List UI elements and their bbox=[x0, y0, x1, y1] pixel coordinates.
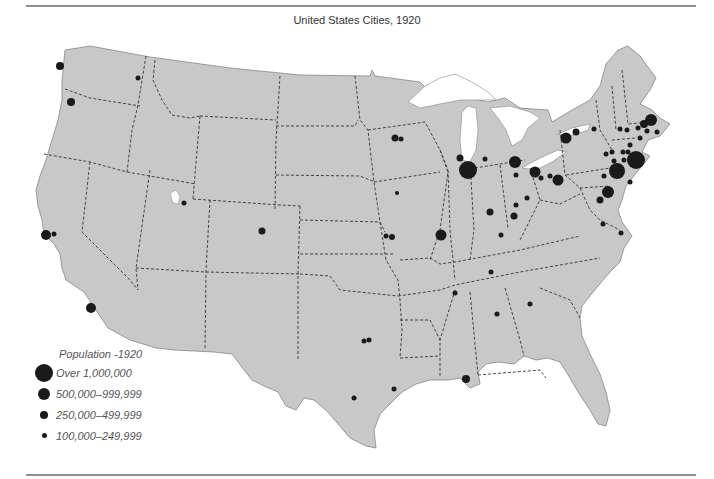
city-marker bbox=[636, 126, 641, 131]
city-marker bbox=[67, 98, 75, 106]
city-marker bbox=[392, 387, 397, 392]
city-marker bbox=[601, 222, 606, 227]
bottom-rule bbox=[26, 474, 696, 476]
city-marker bbox=[528, 302, 533, 307]
city-marker bbox=[136, 76, 141, 81]
city-marker bbox=[604, 152, 609, 157]
city-marker bbox=[618, 127, 623, 132]
city-marker bbox=[384, 234, 389, 239]
city-marker bbox=[622, 158, 627, 163]
city-marker bbox=[621, 150, 626, 155]
legend-item-100k: 100,000–249,999 bbox=[32, 425, 142, 446]
city-marker bbox=[548, 174, 553, 179]
city-marker bbox=[453, 291, 458, 296]
city-marker bbox=[573, 129, 580, 136]
city-marker bbox=[638, 136, 643, 141]
city-marker bbox=[487, 209, 494, 216]
city-marker bbox=[530, 167, 541, 178]
city-marker bbox=[612, 159, 617, 164]
city-dot-icon bbox=[35, 364, 53, 382]
city-marker bbox=[459, 161, 477, 179]
city-marker bbox=[592, 127, 597, 132]
city-marker bbox=[86, 303, 96, 313]
city-marker bbox=[495, 312, 500, 317]
city-marker bbox=[645, 114, 657, 126]
legend-item-over-1m: Over 1,000,000 bbox=[32, 362, 142, 383]
city-marker bbox=[399, 137, 404, 142]
city-marker bbox=[483, 157, 488, 162]
city-marker bbox=[602, 186, 614, 198]
city-marker bbox=[602, 174, 607, 179]
city-marker bbox=[626, 150, 631, 155]
city-marker bbox=[489, 270, 494, 275]
city-marker bbox=[645, 129, 650, 134]
city-marker bbox=[56, 62, 64, 70]
legend: Population -1920 Over 1,000,000 500,000–… bbox=[32, 348, 142, 446]
city-marker bbox=[362, 339, 367, 344]
city-marker bbox=[436, 230, 447, 241]
city-marker bbox=[462, 375, 470, 383]
city-marker bbox=[457, 155, 464, 162]
city-marker bbox=[499, 233, 504, 238]
legend-item-250k: 250,000–499,999 bbox=[32, 404, 142, 425]
city-marker bbox=[511, 213, 518, 220]
city-marker bbox=[561, 133, 572, 144]
legend-title: Population -1920 bbox=[59, 348, 142, 360]
city-dot-icon bbox=[42, 433, 47, 438]
city-marker bbox=[392, 135, 399, 142]
city-marker bbox=[41, 230, 51, 240]
city-marker bbox=[182, 201, 187, 206]
city-marker bbox=[619, 231, 624, 236]
city-marker bbox=[352, 396, 357, 401]
city-marker bbox=[628, 143, 633, 148]
city-dot-icon bbox=[40, 411, 48, 419]
city-marker bbox=[553, 175, 564, 186]
city-marker bbox=[389, 234, 395, 240]
city-marker bbox=[539, 176, 544, 181]
city-marker bbox=[367, 338, 372, 343]
city-marker bbox=[609, 163, 625, 179]
city-marker bbox=[259, 228, 266, 235]
city-marker bbox=[52, 232, 57, 237]
city-marker bbox=[514, 173, 519, 178]
city-marker bbox=[514, 203, 519, 208]
city-marker bbox=[597, 197, 604, 204]
city-dot-icon bbox=[38, 388, 50, 400]
city-marker bbox=[655, 130, 660, 135]
city-marker bbox=[625, 128, 630, 133]
legend-item-500k: 500,000–999,999 bbox=[32, 383, 142, 404]
city-marker bbox=[509, 156, 521, 168]
city-marker bbox=[610, 150, 615, 155]
city-marker bbox=[628, 180, 633, 185]
city-marker bbox=[525, 196, 530, 201]
city-marker bbox=[395, 191, 399, 195]
